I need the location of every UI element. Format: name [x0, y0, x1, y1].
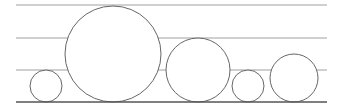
- circle-2: [65, 6, 161, 102]
- circle-1: [30, 70, 62, 102]
- circles: [30, 6, 318, 102]
- circles-diagram: [0, 0, 345, 106]
- circle-4: [232, 70, 264, 102]
- circle-5: [270, 54, 318, 102]
- circle-3: [166, 38, 230, 102]
